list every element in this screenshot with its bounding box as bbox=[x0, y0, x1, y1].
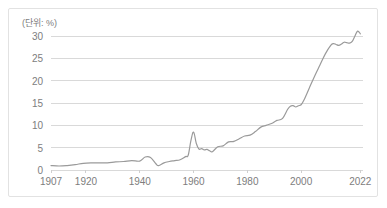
x-axis-tick-label: 1960 bbox=[174, 176, 214, 187]
x-axis-tick-label: 2022 bbox=[340, 176, 380, 187]
x-axis-tick-label: 1920 bbox=[66, 176, 106, 187]
y-axis-tick-label: 30 bbox=[17, 31, 43, 42]
line-chart-svg bbox=[9, 9, 379, 198]
x-axis-tick-label: 1940 bbox=[120, 176, 160, 187]
y-axis-tick-label: 15 bbox=[17, 98, 43, 109]
x-axis-tick-label: 2000 bbox=[281, 176, 321, 187]
y-axis-tick-label: 10 bbox=[17, 120, 43, 131]
y-axis-tick-label: 5 bbox=[17, 142, 43, 153]
chart-figure: (단위: %) 051015202530 1907192019401960198… bbox=[8, 8, 378, 197]
x-axis-tick-label: 1980 bbox=[227, 176, 267, 187]
y-axis-tick-label: 20 bbox=[17, 75, 43, 86]
y-axis-tick-label: 25 bbox=[17, 53, 43, 64]
data-series-line bbox=[51, 31, 360, 166]
y-axis-tick-label: 0 bbox=[17, 165, 43, 176]
plot-area: 051015202530 190719201940196019802000202… bbox=[9, 9, 379, 198]
